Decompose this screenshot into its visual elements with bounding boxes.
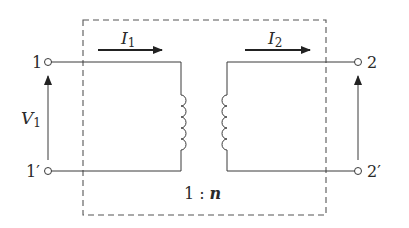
secondary-coil [222, 95, 227, 150]
terminal-2-prime [355, 168, 362, 175]
secondary-circuit [227, 62, 355, 171]
current-label-primary: I1 [120, 28, 135, 50]
primary-coil [181, 95, 186, 150]
terminal-label-1: 1 [32, 53, 42, 72]
transformer-diagram: 1 1′ 2 2′ I1 I2 V1 1:n [0, 0, 409, 228]
terminal-label-2-prime: 2′ [367, 162, 381, 181]
voltage-label-primary: V1 [21, 108, 41, 130]
terminal-1 [45, 59, 52, 66]
terminal-label-2: 2 [367, 53, 377, 72]
terminal-2 [355, 59, 362, 66]
primary-circuit [51, 62, 181, 171]
terminal-label-1-prime: 1′ [26, 162, 40, 181]
current-label-secondary: I2 [267, 28, 282, 50]
turns-ratio-label: 1:n [184, 184, 221, 203]
terminal-1-prime [45, 168, 52, 175]
